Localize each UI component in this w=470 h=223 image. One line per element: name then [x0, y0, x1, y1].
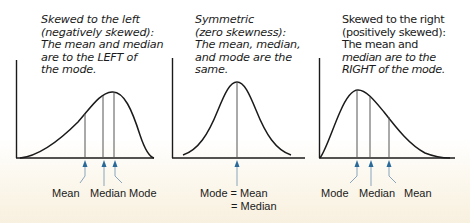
right-skew-plot — [319, 58, 455, 186]
center-arrow-icon — [235, 160, 240, 186]
left-skew-plot — [16, 60, 154, 186]
mean-arrow-icon — [387, 160, 397, 183]
left-median-label: Median — [90, 187, 126, 199]
right-median-label: Median — [359, 187, 395, 199]
median-arrow-icon — [369, 160, 374, 186]
left-skew-curve — [20, 92, 154, 158]
left-mean-label: Mean — [52, 187, 80, 199]
symmetric-label-line1: Mode = Mean — [200, 187, 268, 199]
mode-arrow-icon — [113, 160, 123, 183]
mode-arrow-icon — [350, 160, 360, 183]
median-arrow-icon — [102, 160, 107, 186]
mean-arrow-icon — [80, 160, 88, 183]
left-mode-label: Mode — [129, 187, 157, 199]
right-mean-label: Mean — [404, 187, 432, 199]
symmetric-plot — [172, 58, 305, 186]
right-skew-curve — [320, 90, 450, 158]
symmetric-label-line2: = Median — [231, 200, 277, 212]
right-mode-label: Mode — [321, 187, 349, 199]
